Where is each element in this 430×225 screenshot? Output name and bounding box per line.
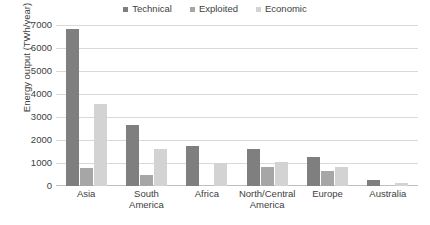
bar-group (237, 25, 297, 186)
bar-group (358, 25, 418, 186)
bar (247, 149, 260, 186)
x-tick-label: Africa (177, 188, 237, 210)
bar (186, 146, 199, 186)
bar (154, 149, 167, 186)
x-tick-label: Australia (358, 188, 418, 210)
bar (140, 175, 153, 186)
bar-group (56, 25, 116, 186)
y-tick-label: 5000 (12, 66, 52, 76)
x-tick-label: Asia (56, 188, 116, 210)
x-tick-label: Europe (297, 188, 357, 210)
legend-entry-technical: Technical (123, 4, 172, 14)
x-tick-label: South America (116, 188, 176, 210)
bar-groups (56, 25, 418, 186)
legend-entry-exploited: Exploited (190, 4, 238, 14)
bar (335, 167, 348, 186)
x-tick-label: North/Central America (237, 188, 297, 210)
y-tick-label: 6000 (12, 43, 52, 53)
bar (126, 125, 139, 186)
chart-legend: Technical Exploited Economic (0, 4, 430, 14)
y-tick-label: 4000 (12, 89, 52, 99)
legend-label-technical: Technical (132, 4, 172, 14)
legend-label-exploited: Exploited (199, 4, 238, 14)
bar-group (297, 25, 357, 186)
bar (80, 168, 93, 186)
bar (214, 163, 227, 186)
y-tick-label: 1000 (12, 158, 52, 168)
bar (395, 183, 408, 186)
y-tick-label: 0 (12, 181, 52, 191)
bar (66, 29, 79, 186)
bar-group (116, 25, 176, 186)
bar (367, 180, 380, 186)
bar-group (177, 25, 237, 186)
y-tick-label: 7000 (12, 20, 52, 30)
bar (261, 167, 274, 186)
bar-chart: Technical Exploited Economic Energy outp… (0, 0, 430, 225)
legend-swatch-economic (256, 7, 261, 12)
bar (275, 162, 288, 186)
y-tick-label: 3000 (12, 112, 52, 122)
legend-label-economic: Economic (265, 4, 307, 14)
bar (307, 157, 320, 186)
legend-entry-economic: Economic (256, 4, 307, 14)
legend-swatch-exploited (190, 7, 195, 12)
bar (321, 171, 334, 186)
x-axis-labels: AsiaSouth AmericaAfricaNorth/Central Ame… (56, 188, 418, 210)
y-tick-label: 2000 (12, 135, 52, 145)
bar (94, 104, 107, 186)
legend-swatch-technical (123, 7, 128, 12)
